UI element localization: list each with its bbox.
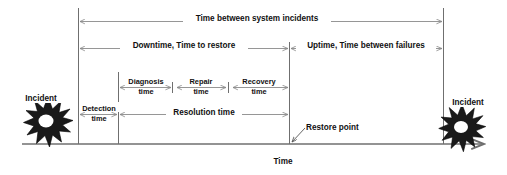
- span-downtime: Downtime, Time to restore: [80, 40, 288, 51]
- incident-label-right: Incident: [452, 98, 484, 107]
- span-label-recovery-line1: Recovery: [242, 77, 276, 86]
- restore-point-label: Restore point: [306, 123, 359, 132]
- span-detection-time: Detection time: [79, 102, 119, 123]
- span-time-between-system-incidents: Time between system incidents: [80, 13, 442, 24]
- span-label-detection-line1: Detection: [82, 104, 116, 113]
- span-label-recovery-line2: time: [251, 87, 266, 96]
- span-label-diagnosis-line1: Diagnosis: [128, 77, 163, 86]
- span-label-detection-line2: time: [91, 114, 106, 123]
- span-recovery-time: Recovery time: [233, 75, 288, 96]
- span-label-repair-line1: Repair: [189, 77, 212, 86]
- restore-point-leader: [292, 128, 305, 142]
- restore-point-callout: Restore point: [292, 123, 359, 142]
- span-label-uptime: Uptime, Time between failures: [307, 41, 425, 50]
- incident-label-left: Incident: [25, 94, 57, 103]
- star-core: [454, 121, 468, 133]
- span-label-resolution-time: Resolution time: [173, 108, 235, 117]
- star-core: [39, 115, 54, 128]
- span-label-diagnosis-line2: time: [138, 87, 153, 96]
- span-uptime: Uptime, Time between failures: [291, 40, 442, 51]
- span-label-repair-line2: time: [193, 87, 208, 96]
- span-diagnosis-time: Diagnosis time: [120, 75, 173, 96]
- incident-timeline-diagram: Time between system incidents Downtime, …: [0, 0, 507, 175]
- span-label-downtime: Downtime, Time to restore: [133, 41, 236, 50]
- diagram-canvas: Time between system incidents Downtime, …: [0, 0, 507, 175]
- span-label-time-between-system-incidents: Time between system incidents: [196, 14, 319, 23]
- span-resolution-time: Resolution time: [120, 106, 288, 117]
- incident-marker-left: Incident: [18, 92, 73, 147]
- time-axis-label: Time: [274, 157, 293, 166]
- span-repair-time: Repair time: [177, 75, 229, 96]
